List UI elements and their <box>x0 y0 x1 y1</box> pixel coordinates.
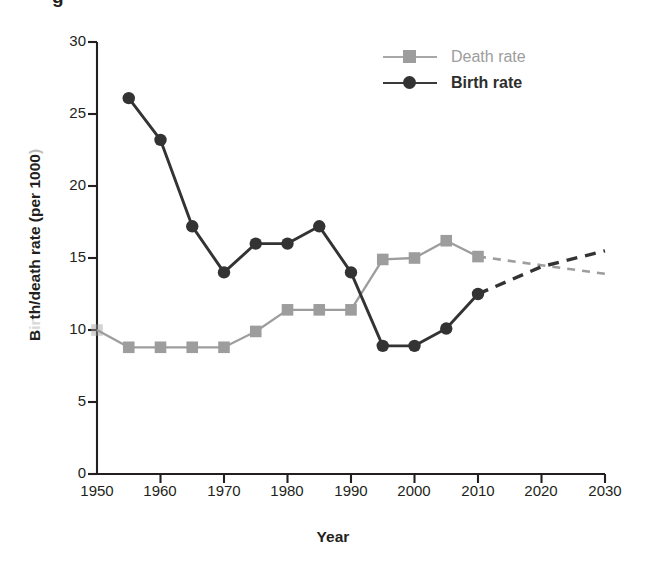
y-axis-label-pre: B <box>26 330 43 341</box>
series-layer <box>91 92 605 353</box>
data-point-marker <box>313 304 325 316</box>
series-death-rate <box>91 235 605 353</box>
y-axis-label: Birth/death rate (per 1000) <box>26 80 44 410</box>
x-tick-label-2030: 2030 <box>575 482 635 499</box>
x-tick-label-1960: 1960 <box>130 482 190 499</box>
data-point-marker <box>440 322 452 334</box>
y-axis-label-tail: ) <box>26 149 43 154</box>
data-point-marker <box>472 288 484 300</box>
legend-label-birth-rate: Birth rate <box>451 74 522 92</box>
y-axis-label-faded: ir <box>26 320 43 330</box>
legend-key-birth-rate <box>383 73 437 93</box>
data-point-marker <box>186 341 198 353</box>
data-point-marker <box>281 237 293 249</box>
x-tick-label-1980: 1980 <box>257 482 317 499</box>
data-point-marker <box>218 341 230 353</box>
y-tick-label-20: 20 <box>52 176 86 193</box>
data-point-marker <box>313 220 325 232</box>
data-point-marker <box>186 220 198 232</box>
y-tick-label-5: 5 <box>52 392 86 409</box>
chart-figure: g Birth/death rate (per 1000) Year 30 25… <box>0 0 666 574</box>
data-point-marker <box>377 340 389 352</box>
data-point-marker <box>155 341 167 353</box>
y-tick-label-0: 0 <box>52 464 86 481</box>
data-point-marker <box>472 251 484 263</box>
data-point-marker <box>282 304 294 316</box>
observed-line <box>97 241 478 348</box>
y-tick-label-30: 30 <box>52 32 86 49</box>
y-axis-label-post: th/death rate (per 1000 <box>26 154 43 319</box>
data-point-marker <box>218 266 230 278</box>
data-point-marker <box>345 304 357 316</box>
data-point-marker <box>250 237 262 249</box>
projection-line <box>478 251 605 294</box>
data-point-marker <box>440 235 452 247</box>
x-tick-label-1990: 1990 <box>321 482 381 499</box>
series-birth-rate <box>123 92 605 352</box>
y-tick-label-15: 15 <box>52 248 86 265</box>
data-point-marker <box>408 340 420 352</box>
data-point-marker <box>250 326 262 338</box>
x-tick-label-1950: 1950 <box>67 482 127 499</box>
data-point-marker <box>91 324 103 336</box>
axis-lines <box>88 42 605 483</box>
x-tick-label-2010: 2010 <box>448 482 508 499</box>
data-point-marker <box>123 341 135 353</box>
projection-line <box>478 257 605 274</box>
legend-key-death-rate <box>383 47 437 67</box>
data-point-marker <box>409 252 421 264</box>
square-marker-icon <box>403 50 416 63</box>
data-point-marker <box>123 92 135 104</box>
chart-legend: Death rate Birth rate <box>383 44 526 96</box>
observed-line <box>129 98 478 346</box>
data-point-marker <box>345 266 357 278</box>
x-tick-label-2020: 2020 <box>511 482 571 499</box>
legend-label-death-rate: Death rate <box>451 48 526 66</box>
circle-marker-icon <box>403 76 416 89</box>
legend-item-birth-rate: Birth rate <box>383 70 526 96</box>
x-tick-label-2000: 2000 <box>384 482 444 499</box>
data-point-marker <box>377 254 389 266</box>
legend-item-death-rate: Death rate <box>383 44 526 70</box>
data-point-marker <box>154 134 166 146</box>
cropped-title-fragment: g <box>52 0 64 8</box>
y-tick-label-10: 10 <box>52 320 86 337</box>
y-tick-label-25: 25 <box>52 104 86 121</box>
x-axis-label: Year <box>0 528 666 546</box>
x-tick-label-1970: 1970 <box>194 482 254 499</box>
